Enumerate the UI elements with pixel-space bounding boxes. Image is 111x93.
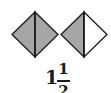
fraction-denominator: 2: [57, 84, 70, 93]
diamond-2-right-half: [84, 12, 107, 57]
diamond-1-right-half: [35, 12, 58, 57]
fraction-figure: 1 1 2: [0, 0, 111, 93]
diamond-1: [12, 12, 58, 57]
diamond-1-left-half: [12, 12, 35, 57]
mixed-number-fraction: 1 2: [57, 60, 70, 93]
diamond-2: [61, 12, 107, 57]
fraction-numerator: 1: [57, 60, 70, 78]
diamond-2-left-half: [61, 12, 84, 57]
